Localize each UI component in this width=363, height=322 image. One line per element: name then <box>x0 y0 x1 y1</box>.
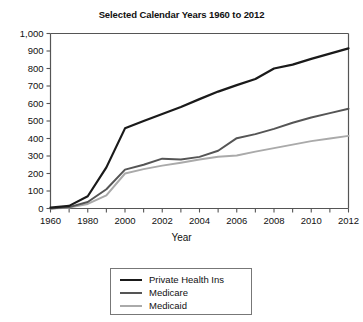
svg-text:100: 100 <box>28 185 44 196</box>
svg-text:1980: 1980 <box>77 215 98 226</box>
svg-text:600: 600 <box>28 98 44 109</box>
legend-item: Medicaid <box>111 299 251 312</box>
svg-text:2010: 2010 <box>301 215 322 226</box>
svg-text:900: 900 <box>28 45 44 56</box>
svg-text:500: 500 <box>28 115 44 126</box>
svg-text:200: 200 <box>28 168 44 179</box>
legend-swatch-private-health-ins <box>120 279 142 281</box>
y-axis: 01002003004005006007008009001,000 <box>20 28 51 214</box>
x-axis: 196019802000200220042006200820102012 <box>40 209 359 226</box>
legend-swatch-medicaid <box>120 305 142 307</box>
plot-frame <box>51 34 349 209</box>
svg-text:400: 400 <box>28 133 44 144</box>
svg-text:300: 300 <box>28 150 44 161</box>
svg-text:2006: 2006 <box>226 215 247 226</box>
svg-text:2000: 2000 <box>114 215 135 226</box>
svg-text:0: 0 <box>38 203 43 214</box>
plot-area: 01002003004005006007008009001,000 196019… <box>0 0 363 232</box>
legend-swatch-medicare <box>120 292 142 294</box>
legend-item: Medicare <box>111 286 251 299</box>
svg-text:1,000: 1,000 <box>20 28 44 39</box>
x-axis-title: Year <box>0 232 363 243</box>
svg-text:700: 700 <box>28 80 44 91</box>
legend-label-private-health-ins: Private Health Ins <box>149 273 224 286</box>
legend-label-medicare: Medicare <box>149 286 188 299</box>
svg-text:2008: 2008 <box>263 215 284 226</box>
svg-text:1960: 1960 <box>40 215 61 226</box>
data-series-group <box>51 48 349 208</box>
svg-text:2012: 2012 <box>338 215 359 226</box>
chart-legend: Private Health Ins Medicare Medicaid <box>110 268 252 315</box>
svg-text:2002: 2002 <box>152 215 173 226</box>
chart-container: Selected Calendar Years 1960 to 2012 010… <box>0 0 363 322</box>
svg-text:2004: 2004 <box>189 215 210 226</box>
svg-text:800: 800 <box>28 63 44 74</box>
legend-item: Private Health Ins <box>111 273 251 286</box>
legend-label-medicaid: Medicaid <box>149 299 187 312</box>
